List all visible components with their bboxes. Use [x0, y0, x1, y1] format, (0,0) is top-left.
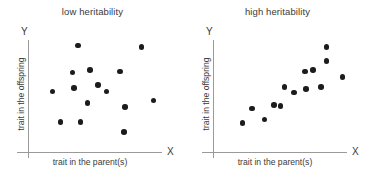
scatter-point	[310, 67, 316, 73]
scatter-point	[249, 106, 255, 112]
panel-low-heritability: low heritability Y X trait in the offspr…	[0, 0, 185, 178]
scatter-point	[70, 70, 76, 76]
panel-title-low: low heritability	[0, 6, 185, 18]
x-axis-line-low	[17, 152, 162, 153]
scatter-point	[324, 44, 330, 50]
scatter-point	[122, 104, 128, 110]
scatter-point	[291, 90, 297, 96]
scatter-plot-area-low	[28, 40, 163, 152]
scatter-plot-area-high	[213, 40, 348, 152]
y-axis-letter-low: Y	[21, 26, 28, 38]
heritability-figure: low heritability Y X trait in the offspr…	[0, 0, 370, 178]
scatter-point	[85, 100, 91, 106]
scatter-point	[262, 117, 268, 123]
scatter-point	[271, 102, 277, 108]
y-axis-letter-high: Y	[206, 26, 213, 38]
panel-title-high: high heritability	[185, 6, 370, 18]
scatter-point	[87, 67, 93, 73]
x-axis-label-low: trait in the parent(s)	[20, 157, 160, 167]
scatter-point	[71, 85, 77, 91]
scatter-point	[50, 89, 56, 95]
scatter-point	[324, 58, 330, 64]
x-axis-letter-low: X	[167, 146, 174, 158]
scatter-point	[95, 82, 101, 88]
x-axis-label-high: trait in the parent(s)	[205, 157, 345, 167]
scatter-point	[318, 84, 324, 90]
scatter-point	[151, 98, 157, 104]
scatter-point	[78, 119, 84, 125]
scatter-point	[117, 69, 123, 75]
x-axis-letter-high: X	[352, 146, 359, 158]
y-axis-label-low: trait in the offspring	[16, 44, 26, 144]
scatter-point	[104, 89, 110, 95]
scatter-point	[139, 44, 145, 50]
scatter-point	[340, 74, 346, 80]
scatter-point	[282, 84, 288, 90]
scatter-point	[240, 120, 246, 126]
y-axis-label-high: trait in the offspring	[201, 44, 211, 144]
panel-high-heritability: high heritability Y X trait in the offsp…	[185, 0, 370, 178]
scatter-point	[303, 86, 309, 92]
scatter-point	[58, 119, 64, 125]
scatter-point	[278, 103, 284, 109]
scatter-point	[121, 129, 127, 135]
x-axis-line-high	[202, 152, 347, 153]
scatter-point	[302, 69, 308, 75]
scatter-point	[75, 43, 81, 49]
